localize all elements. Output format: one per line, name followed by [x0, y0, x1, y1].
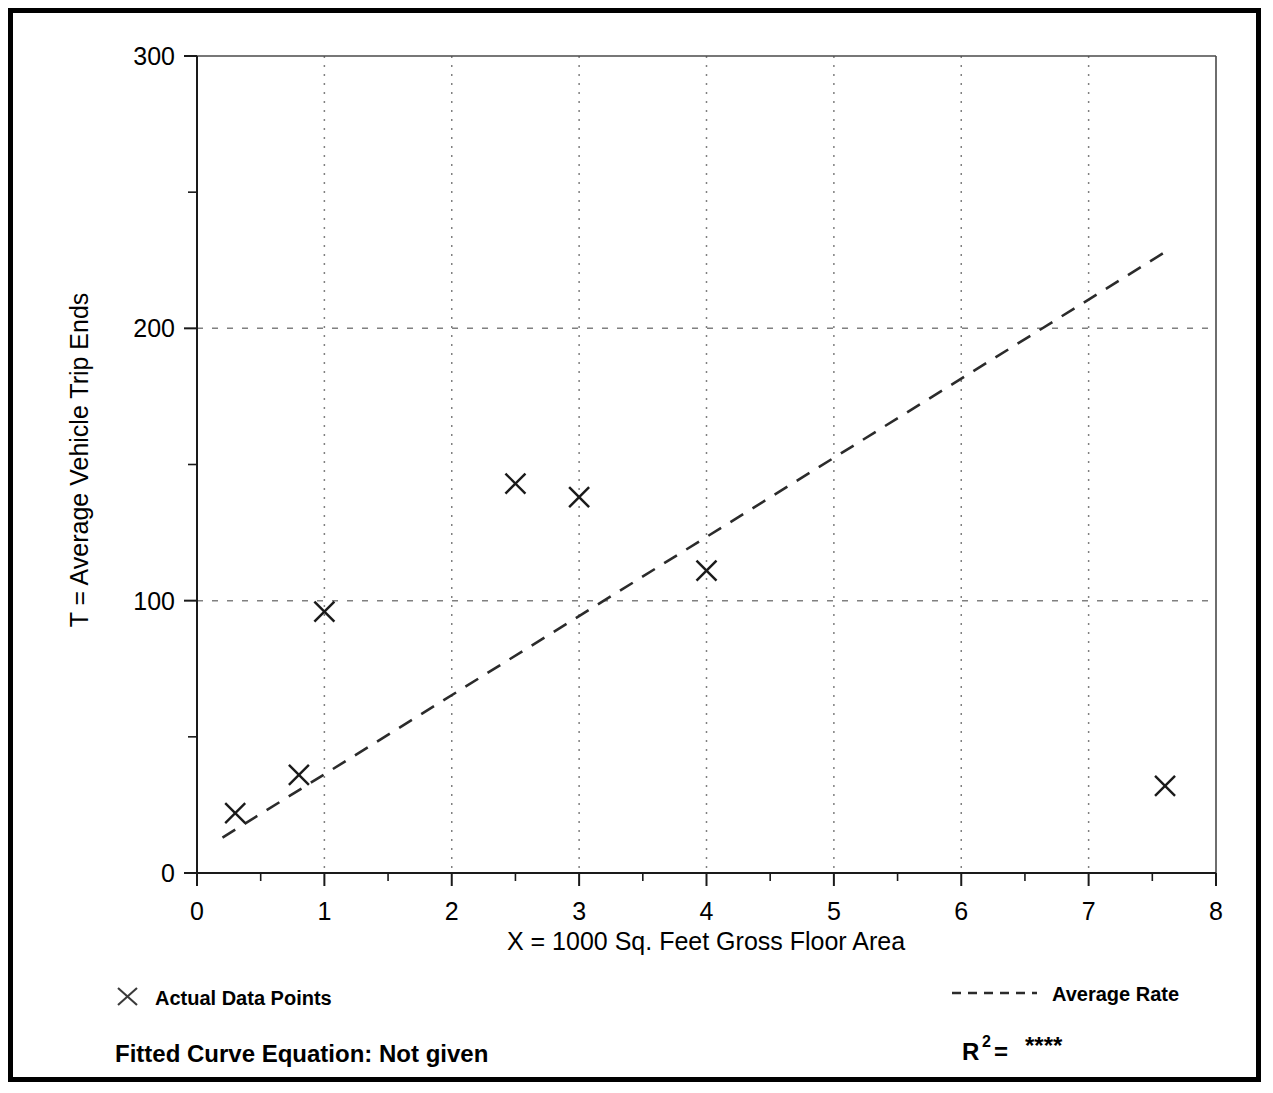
legend-entry-actual-data-points: Actual Data Points: [118, 987, 332, 1009]
x-axis-title: X = 1000 Sq. Feet Gross Floor Area: [507, 927, 905, 955]
x-tick-label: 4: [700, 897, 714, 925]
legend-label-average-rate: Average Rate: [1052, 983, 1179, 1005]
horizontal-gridlines: [197, 328, 1216, 600]
fitted-curve-equation-text: Fitted Curve Equation: Not given: [115, 1040, 488, 1067]
data-point-marker: [225, 803, 245, 823]
scatter-chart-figure: 012345678 0100200300 X = 1000 Sq. Feet G…: [0, 0, 1273, 1093]
y-tick-label: 0: [161, 859, 175, 887]
x-tick-label: 3: [572, 897, 586, 925]
y-tick-label: 300: [133, 42, 175, 70]
r-squared-equals: =: [994, 1038, 1008, 1065]
x-tick-label: 6: [954, 897, 968, 925]
vertical-gridlines: [324, 56, 1088, 873]
y-tick-label: 200: [133, 314, 175, 342]
data-point-marker: [1155, 776, 1175, 796]
data-point-marker: [569, 487, 589, 507]
data-point-marker: [505, 474, 525, 494]
y-axis-tick-labels: 0100200300: [133, 42, 175, 887]
x-axis-major-ticks: [197, 873, 1216, 886]
r-squared-exponent: 2: [982, 1033, 991, 1050]
x-tick-label: 0: [190, 897, 204, 925]
y-tick-label: 100: [133, 587, 175, 615]
x-axis-tick-labels: 012345678: [190, 897, 1223, 925]
legend-entry-average-rate: Average Rate: [952, 983, 1179, 1005]
data-point-marker: [289, 765, 309, 785]
chart-page: 012345678 0100200300 X = 1000 Sq. Feet G…: [0, 0, 1273, 1093]
average-rate-trendline: [222, 252, 1165, 838]
trendline-segment: [222, 252, 1165, 838]
actual-data-points-markers: [225, 474, 1175, 824]
x-tick-label: 2: [445, 897, 459, 925]
x-tick-label: 5: [827, 897, 841, 925]
x-tick-label: 8: [1209, 897, 1223, 925]
r-squared-annotation: R 2 = ****: [962, 1032, 1063, 1065]
data-point-marker: [314, 602, 334, 622]
y-axis-title: T = Average Vehicle Trip Ends: [65, 293, 93, 628]
legend-label-actual-data-points: Actual Data Points: [155, 987, 332, 1009]
x-tick-label: 1: [317, 897, 331, 925]
r-squared-value: ****: [1025, 1032, 1063, 1059]
y-axis-minor-ticks: [188, 192, 197, 737]
r-squared-symbol: R: [962, 1038, 979, 1065]
x-tick-label: 7: [1082, 897, 1096, 925]
data-point-marker: [697, 561, 717, 581]
